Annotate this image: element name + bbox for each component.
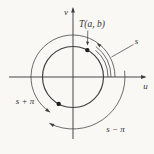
arc-s-pointer-line [112,45,134,58]
point-T [85,48,89,52]
point-T-label: T(a, b) [79,19,105,30]
unit-circle-diagram: T(a, b) v u s s + π s − π [0,0,154,154]
v-axis-arrow-icon [71,7,75,13]
arc-s-minus-pi-arrowhead-icon [49,122,55,127]
point-opposite [57,102,61,106]
arc-s-minus-pi-label: s − π [106,124,125,134]
point-T-pointer-arrowhead-icon [86,42,89,46]
u-axis-label: u [143,81,148,91]
v-axis-label: v [64,7,68,17]
arc-s-plus-pi-label: s + π [16,96,35,106]
arc-s-label: s [135,36,139,46]
u-axis-arrow-icon [141,75,147,79]
unit-circle-figure: T(a, b) v u s s + π s − π [0,0,154,154]
arc-s-minus-pi [49,71,125,129]
arc-s-inner [96,50,109,77]
